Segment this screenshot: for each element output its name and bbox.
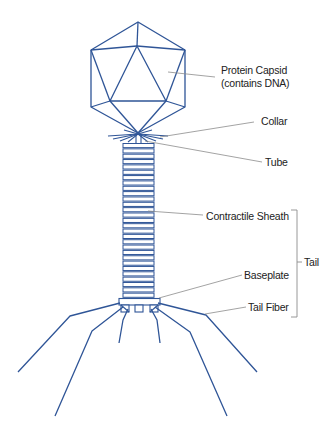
sheath-segment (123, 277, 154, 281)
label-collar: Collar (261, 115, 287, 127)
sheath-segment (123, 213, 154, 217)
sheath-segment (123, 229, 154, 233)
label-tail-fiber: Tail Fiber (248, 301, 289, 313)
collar (108, 130, 168, 143)
sheath-segment (123, 293, 154, 297)
contractile-sheath (123, 144, 154, 298)
tail-fibers (18, 303, 257, 416)
label-tube: Tube (265, 156, 288, 168)
sheath-segment (123, 240, 154, 244)
sheath-segment (123, 266, 154, 270)
sheath-segment (123, 192, 154, 196)
sheath-segment (123, 245, 154, 249)
sheath-segment (123, 218, 154, 222)
sheath-segment (123, 154, 154, 158)
baseplate (119, 299, 160, 313)
sheath-segment (123, 176, 154, 180)
sheath-segment (123, 272, 154, 276)
sheath-segment (123, 197, 154, 201)
label-capsid-line2: (contains DNA) (221, 77, 289, 89)
sheath-segment (123, 160, 154, 164)
sheath-segment (123, 288, 154, 292)
sheath-segment (123, 170, 154, 174)
label-capsid-line1: Protein Capsid (221, 64, 287, 76)
sheath-segment (123, 181, 154, 185)
label-baseplate: Baseplate (244, 269, 289, 281)
sheath-segment (123, 250, 154, 254)
sheath-segment (123, 144, 154, 148)
capsid (91, 22, 185, 133)
sheath-segment (123, 202, 154, 206)
sheath-segment (123, 165, 154, 169)
label-contractile-sheath: Contractile Sheath (206, 210, 289, 222)
sheath-segment (123, 261, 154, 265)
sheath-segment (123, 234, 154, 238)
sheath-segment (123, 224, 154, 228)
sheath-segment (123, 256, 154, 260)
label-tail: Tail (304, 256, 319, 268)
sheath-segment (123, 149, 154, 153)
tail-bracket (291, 210, 302, 317)
sheath-segment (123, 186, 154, 190)
sheath-segment (123, 282, 154, 286)
